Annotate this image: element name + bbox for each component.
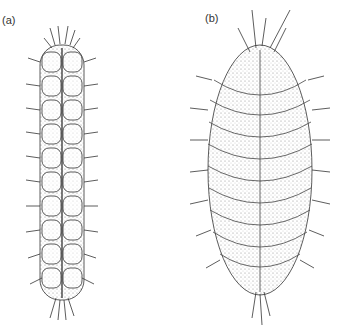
worm-b [190, 10, 330, 325]
illustration [0, 0, 345, 333]
worm-a [26, 26, 98, 320]
